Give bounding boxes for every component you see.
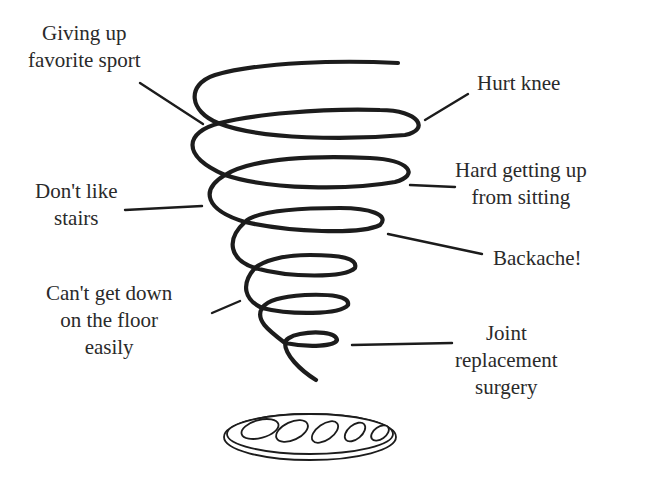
label-giving-up-sport: Giving up favorite sport	[28, 20, 141, 74]
leader-line-dont-like-stairs	[125, 206, 202, 210]
label-line: Backache!	[493, 245, 582, 272]
label-line: Giving up	[28, 20, 141, 47]
label-line: replacement	[455, 347, 558, 374]
label-line: Can't get down	[46, 280, 172, 307]
label-backache: Backache!	[493, 245, 582, 272]
downward-spiral-icon	[193, 62, 419, 380]
label-line: Hurt knee	[477, 70, 560, 97]
label-hard-getting-up: Hard getting up from sitting	[455, 157, 587, 211]
drain-grate-icon	[224, 414, 396, 460]
leader-line-hard-getting-up	[410, 185, 455, 187]
label-hurt-knee: Hurt knee	[477, 70, 560, 97]
label-joint-replacement: Joint replacement surgery	[455, 320, 558, 401]
label-dont-like-stairs: Don't like stairs	[35, 178, 118, 232]
label-cant-get-down: Can't get down on the floor easily	[46, 280, 172, 361]
leader-line-hurt-knee	[425, 94, 468, 120]
label-line: stairs	[35, 205, 118, 232]
label-line: from sitting	[455, 184, 587, 211]
label-line: easily	[46, 334, 172, 361]
label-line: favorite sport	[28, 47, 141, 74]
label-line: Hard getting up	[455, 157, 587, 184]
label-line: Joint	[455, 320, 558, 347]
leader-line-giving-up-sport	[140, 83, 203, 124]
label-line: Don't like	[35, 178, 118, 205]
leader-line-backache	[388, 234, 482, 254]
leader-line-joint-replacement	[352, 343, 452, 345]
label-line: surgery	[455, 374, 558, 401]
label-line: on the floor	[46, 307, 172, 334]
leader-line-cant-get-down	[212, 301, 240, 313]
